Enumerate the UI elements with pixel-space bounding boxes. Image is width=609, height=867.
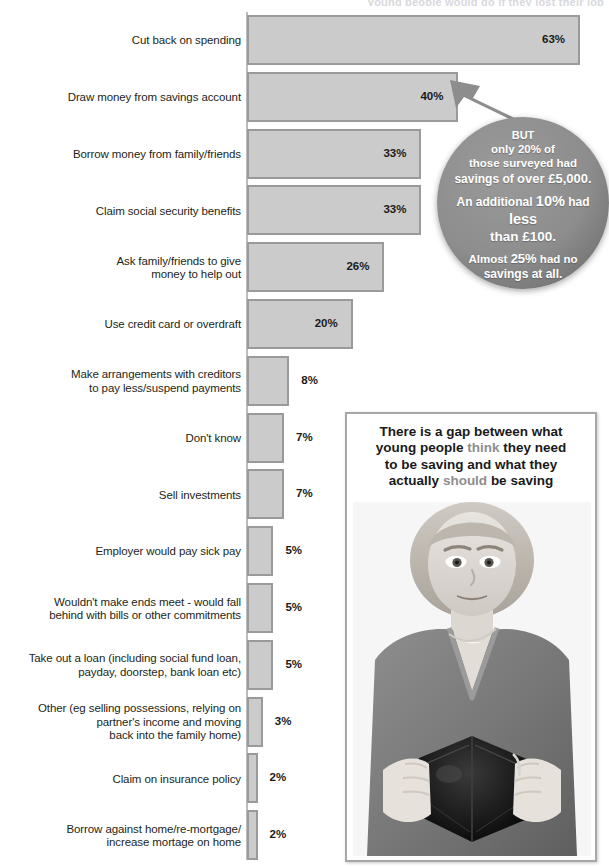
bar-row-label-line: back into the family home) [0, 729, 241, 743]
bar [247, 810, 258, 860]
bar [247, 640, 273, 690]
caption-line-4: actually should be saving [355, 473, 587, 489]
caption-line-4-c: be saving [487, 473, 553, 488]
bar-row-label-line: Use credit card or overdraft [0, 318, 241, 332]
bar-row-label-line: Wouldn't make ends meet - would fall [0, 596, 241, 610]
bar-value-label: 5% [285, 544, 302, 556]
caption-line-4-a: actually [389, 473, 443, 488]
bar-value-label: 5% [285, 658, 302, 670]
bar-row: Cut back on spending63% [0, 15, 604, 65]
bar-value-label: 5% [285, 601, 302, 613]
bar-row-label: Make arrangements with creditorsto pay l… [0, 368, 241, 395]
bar-row-label-line: Other (eg selling possessions, relying o… [0, 702, 241, 716]
bar [247, 753, 258, 803]
bar-row-label: Ask family/friends to givemoney to help … [0, 255, 241, 282]
callout-line-6: than £100. [447, 229, 599, 245]
bar-row: Make arrangements with creditorsto pay l… [0, 356, 604, 406]
bar-row-label-line: Draw money from savings account [0, 91, 241, 105]
bar [247, 583, 273, 633]
bar-row-label-line: Claim on insurance policy [0, 773, 241, 787]
bar-row-label-line: Borrow against home/re-mortgage/ [0, 823, 241, 837]
bar-value-label: 33% [383, 203, 406, 215]
photo-caption: There is a gap between what young people… [347, 414, 595, 496]
callout-line-7-a: Almost [468, 253, 510, 265]
bar-row-label: Employer would pay sick pay [0, 545, 241, 559]
callout-line-5-a: An additional [456, 195, 535, 209]
caption-line-2-a: young people [376, 440, 468, 455]
bar-row: Use credit card or overdraft20% [0, 299, 604, 349]
bar-row-label-line: partner's income and moving [0, 716, 241, 730]
callout-line-4: savings of over £5,000. [447, 171, 599, 187]
caption-emphasis-should: should [443, 473, 487, 488]
bar-value-label: 2% [270, 771, 287, 783]
callout-line-5-c: had [565, 195, 590, 209]
callout-line-5: An additional 10% had less [447, 193, 599, 228]
bar-value-label: 3% [275, 715, 292, 727]
callout-line-3: those surveyed had [447, 156, 599, 170]
callout-line-5-d: less [509, 211, 537, 227]
bar-row-label-line: to pay less/suspend payments [0, 382, 241, 396]
bar-row-label-line: Take out a loan (including social fund l… [0, 652, 241, 666]
bar-row-label: Cut back on spending [0, 34, 241, 48]
bar-row-label: Claim on insurance policy [0, 773, 241, 787]
bar-row-label-line: money to help out [0, 268, 241, 282]
bar-row-label-line: Make arrangements with creditors [0, 368, 241, 382]
bar-row-label: Borrow against home/re-mortgage/increase… [0, 823, 241, 850]
bar-row-label-line: Ask family/friends to give [0, 255, 241, 269]
bar-row-label: Take out a loan (including social fund l… [0, 652, 241, 679]
bar-row-label-line: Don't know [0, 432, 241, 446]
bar-value-label: 33% [383, 147, 406, 159]
bar-row-label-line: Cut back on spending [0, 34, 241, 48]
bar-value-label: 7% [296, 487, 313, 499]
callout-line-2: only 20% of [447, 142, 599, 156]
bar-value-label: 8% [301, 374, 318, 386]
photo-image [353, 502, 591, 856]
young-woman-holding-empty-wallet-illustration [353, 502, 591, 856]
bar [247, 526, 273, 576]
callout-line-7-c: had no [537, 253, 578, 265]
bar-row-label: Claim social security benefits [0, 205, 241, 219]
caption-line-1: There is a gap between what [355, 424, 587, 440]
bar-value-label: 26% [346, 260, 369, 272]
bar-value-label: 2% [270, 828, 287, 840]
bar-row-label: Use credit card or overdraft [0, 318, 241, 332]
callout-line-4-a: savings of [454, 172, 517, 186]
bar-row-label: Other (eg selling possessions, relying o… [0, 702, 241, 743]
bar-row-label-line: behind with bills or other commitments [0, 609, 241, 623]
bar [247, 356, 289, 406]
bar-value-label: 40% [420, 90, 443, 102]
bar-value-label: 63% [542, 33, 565, 45]
caption-line-2: young people think they need [355, 440, 587, 456]
bar-row-label-line: increase mortage on home [0, 836, 241, 850]
bar-row-label-line: Borrow money from family/friends [0, 148, 241, 162]
bar-row: Draw money from savings account40% [0, 72, 604, 122]
savings-callout-bubble: BUT only 20% of those surveyed had savin… [437, 117, 609, 289]
caption-line-2-c: they need [499, 440, 566, 455]
bar-row-label-line: Claim social security benefits [0, 205, 241, 219]
bar [247, 697, 263, 747]
bar-row-label-line: Employer would pay sick pay [0, 545, 241, 559]
bar [247, 15, 580, 65]
bar-row-label: Sell investments [0, 489, 241, 503]
bar-row-label: Draw money from savings account [0, 91, 241, 105]
bar-row-label: Borrow money from family/friends [0, 148, 241, 162]
caption-emphasis-think: think [467, 440, 499, 455]
callout-line-7-b: 25% [511, 251, 537, 266]
bar-row-label: Wouldn't make ends meet - would fallbehi… [0, 596, 241, 623]
bar [247, 469, 284, 519]
bar-row-label: Don't know [0, 432, 241, 446]
callout-line-4-b: over £5,000. [517, 171, 591, 186]
photo-panel: There is a gap between what young people… [345, 412, 597, 862]
caption-line-3: to be saving and what they [355, 457, 587, 473]
bar [247, 413, 284, 463]
bar-row-label-line: Sell investments [0, 489, 241, 503]
callout-line-7: Almost 25% had no [447, 251, 599, 267]
callout-line-5-b: 10% [536, 193, 565, 209]
bar-value-label: 20% [315, 317, 338, 329]
bar-row-label-line: payday, doorstep, bank loan etc) [0, 666, 241, 680]
bar-value-label: 7% [296, 431, 313, 443]
